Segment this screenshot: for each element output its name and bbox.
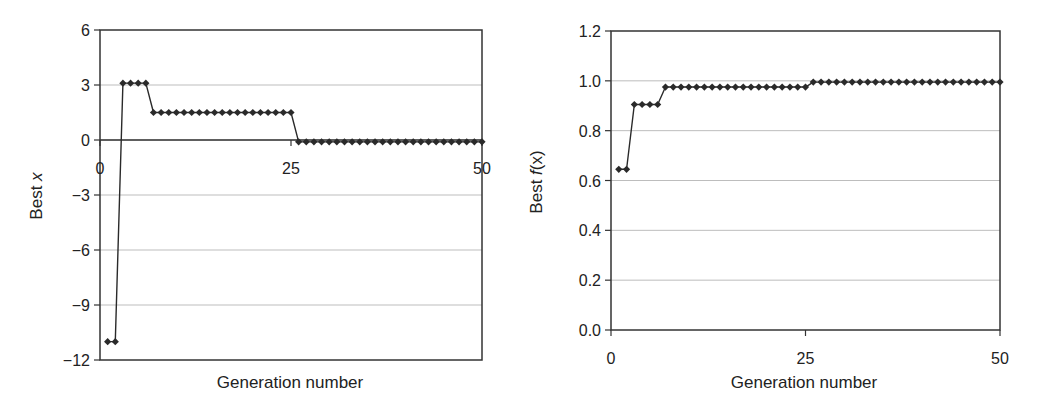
diamond-marker xyxy=(402,138,409,145)
diamond-marker xyxy=(364,138,371,145)
diamond-marker xyxy=(771,83,778,90)
diamond-marker xyxy=(104,338,111,345)
diamond-marker xyxy=(825,78,832,85)
diamond-marker xyxy=(188,109,195,116)
diamond-marker xyxy=(670,83,677,90)
diamond-marker xyxy=(747,83,754,90)
diamond-marker xyxy=(950,78,957,85)
y-tick-label: 3 xyxy=(81,77,90,94)
diamond-marker xyxy=(864,78,871,85)
grid-lines xyxy=(100,30,482,360)
diamond-marker xyxy=(810,78,817,85)
diamond-marker xyxy=(433,138,440,145)
diamond-marker xyxy=(662,83,669,90)
diamond-marker xyxy=(303,138,310,145)
x-axis-ticks: 02550 xyxy=(96,140,491,177)
y-tick-label: 6 xyxy=(81,22,90,39)
y-tick-label: 0 xyxy=(81,132,90,149)
x-tick-label: 0 xyxy=(96,160,105,177)
diamond-marker xyxy=(478,138,485,145)
diamond-marker xyxy=(165,109,172,116)
diamond-marker xyxy=(203,109,210,116)
diamond-marker xyxy=(996,78,1003,85)
diamond-marker xyxy=(903,78,910,85)
y-tick-label: 1.0 xyxy=(579,73,601,90)
diamond-marker xyxy=(639,101,646,108)
diamond-marker xyxy=(654,101,661,108)
diamond-marker xyxy=(287,109,294,116)
diamond-marker xyxy=(989,78,996,85)
diamond-marker xyxy=(249,109,256,116)
diamond-marker xyxy=(701,83,708,90)
diamond-marker xyxy=(724,83,731,90)
x-tick-label: 25 xyxy=(282,160,300,177)
diamond-marker xyxy=(631,101,638,108)
diamond-marker xyxy=(763,83,770,90)
diamond-marker xyxy=(226,109,233,116)
diamond-marker xyxy=(926,78,933,85)
diamond-marker xyxy=(973,78,980,85)
diamond-marker xyxy=(981,78,988,85)
x-axis-label: Generation number xyxy=(217,373,364,392)
diamond-marker xyxy=(158,109,165,116)
diamond-marker xyxy=(919,78,926,85)
series-line xyxy=(108,83,482,342)
best-x-plot: 630−3−6−9−12 02550 Generation number Bes… xyxy=(0,0,520,417)
diamond-marker xyxy=(341,138,348,145)
diamond-marker xyxy=(310,138,317,145)
y-tick-label: −12 xyxy=(63,352,90,369)
diamond-marker xyxy=(709,83,716,90)
diamond-marker xyxy=(379,138,386,145)
diamond-marker xyxy=(895,78,902,85)
diamond-marker xyxy=(371,138,378,145)
diamond-marker xyxy=(623,166,630,173)
diamond-marker xyxy=(685,83,692,90)
diamond-marker xyxy=(693,83,700,90)
diamond-marker xyxy=(732,83,739,90)
diamond-marker xyxy=(872,78,879,85)
diamond-marker xyxy=(849,78,856,85)
diamond-marker xyxy=(142,80,149,87)
diamond-marker xyxy=(295,138,302,145)
diamond-marker xyxy=(180,109,187,116)
best-x-chart: 630−3−6−9−12 02550 Generation number Bes… xyxy=(0,0,520,417)
x-axis-ticks: 02550 xyxy=(607,330,1009,367)
diamond-marker xyxy=(219,109,226,116)
diamond-marker xyxy=(677,83,684,90)
diamond-marker xyxy=(794,83,801,90)
diamond-marker xyxy=(356,138,363,145)
diamond-marker xyxy=(934,78,941,85)
diamond-marker xyxy=(425,138,432,145)
diamond-marker xyxy=(887,78,894,85)
diamond-marker xyxy=(716,83,723,90)
x-tick-label: 50 xyxy=(991,350,1009,367)
diamond-marker xyxy=(755,83,762,90)
diamond-marker xyxy=(119,80,126,87)
diamond-marker xyxy=(942,78,949,85)
best-fx-plot: 1.21.00.80.60.40.20.0 02550 Generation n… xyxy=(520,0,1037,417)
diamond-marker xyxy=(242,109,249,116)
x-tick-label: 50 xyxy=(473,160,491,177)
diamond-marker xyxy=(958,78,965,85)
diamond-marker xyxy=(779,83,786,90)
diamond-marker xyxy=(911,78,918,85)
diamond-marker xyxy=(387,138,394,145)
diamond-marker xyxy=(394,138,401,145)
y-tick-label: 0.6 xyxy=(579,173,601,190)
diamond-marker xyxy=(615,166,622,173)
diamond-marker xyxy=(257,109,264,116)
diamond-marker xyxy=(264,109,271,116)
diamond-marker xyxy=(448,138,455,145)
y-tick-label: −6 xyxy=(72,242,90,259)
diamond-marker xyxy=(802,83,809,90)
series-line xyxy=(619,82,1000,169)
x-axis-label: Generation number xyxy=(731,373,878,392)
y-axis-ticks: 630−3−6−9−12 xyxy=(63,22,100,369)
diamond-marker xyxy=(326,138,333,145)
diamond-marker xyxy=(841,78,848,85)
y-tick-label: −9 xyxy=(72,297,90,314)
y-tick-label: 0.8 xyxy=(579,123,601,140)
y-tick-label: 0.0 xyxy=(579,322,601,339)
diamond-marker xyxy=(646,101,653,108)
y-axis-label: Best f(x) xyxy=(527,150,546,213)
